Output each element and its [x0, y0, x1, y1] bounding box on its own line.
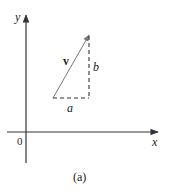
origin-label: 0	[17, 135, 23, 147]
vector-label: v	[63, 54, 69, 68]
component-b-label: b	[93, 60, 99, 74]
vector-diagram: y x 0 v b a (a)	[0, 0, 193, 195]
figure-caption: (a)	[73, 170, 86, 184]
component-a-label: a	[67, 101, 73, 115]
vector-v	[53, 35, 89, 98]
x-axis-label: x	[151, 135, 158, 149]
y-axis-label: y	[14, 10, 21, 24]
